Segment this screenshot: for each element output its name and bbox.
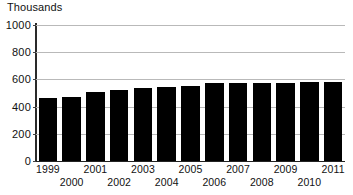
- x-axis-tick-label: 2004: [153, 177, 181, 188]
- x-axis-tick-label: 2003: [129, 164, 157, 175]
- bar: [62, 97, 81, 161]
- x-axis-tick-labels: 1999200020012002200320042005200620072008…: [36, 162, 345, 195]
- x-axis-tick-label: 2008: [248, 177, 276, 188]
- x-axis-tick-label: 2000: [58, 177, 86, 188]
- x-axis-tick-label: 2001: [81, 164, 109, 175]
- bar: [181, 86, 200, 161]
- y-axis-tick-label: 1000: [0, 20, 31, 31]
- x-axis-tick-label: 2005: [177, 164, 205, 175]
- bar: [324, 82, 343, 161]
- x-axis-tick-label: 2002: [105, 177, 133, 188]
- bar: [39, 98, 58, 161]
- y-axis-tick-label: 600: [0, 74, 31, 85]
- bar: [253, 83, 272, 161]
- chart-title: Thousands: [7, 1, 62, 14]
- plot-area: [36, 25, 345, 161]
- x-axis-tick-label: 2006: [200, 177, 228, 188]
- x-axis-tick-label: 2009: [272, 164, 300, 175]
- bar: [229, 83, 248, 161]
- x-axis-tick-label: 2007: [224, 164, 252, 175]
- gridline: [36, 79, 345, 80]
- bar: [276, 83, 295, 161]
- bar-chart: Thousands 02004006008001000 199920002001…: [0, 0, 353, 195]
- bar: [300, 82, 319, 161]
- y-axis-tick-label: 400: [0, 102, 31, 113]
- bar: [134, 88, 153, 161]
- y-axis-tick-label: 200: [0, 129, 31, 140]
- y-axis-tick-label: 0: [0, 156, 31, 167]
- gridline: [36, 52, 345, 53]
- y-axis-tick-label: 800: [0, 47, 31, 58]
- x-axis-tick-label: 2011: [319, 164, 347, 175]
- gridline: [36, 25, 345, 26]
- y-axis-tick-labels: 02004006008001000: [0, 25, 33, 161]
- x-axis-tick-label: 1999: [34, 164, 62, 175]
- x-axis-tick-label: 2010: [295, 177, 323, 188]
- bar: [157, 87, 176, 161]
- bar: [110, 90, 129, 161]
- bar: [86, 92, 105, 161]
- bar: [205, 83, 224, 161]
